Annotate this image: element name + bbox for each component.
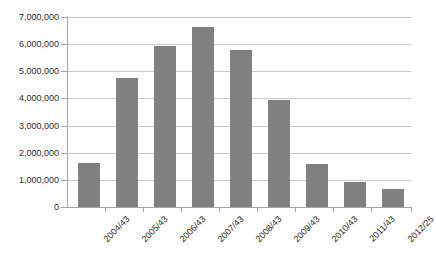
x-tick-label-2005-43: 2005/43 <box>140 214 170 244</box>
x-tick-label-2012-25: 2012/25 <box>406 214 436 244</box>
x-tick-label-2010-43: 2010/43 <box>330 214 360 244</box>
x-tick-label-2009-43: 2009/43 <box>292 214 322 244</box>
x-tick-label-2008-43: 2008/43 <box>254 214 284 244</box>
x-tick-label-2004-43: 2004/43 <box>102 214 132 244</box>
x-tick-label-2011-43: 2011/43 <box>367 214 397 244</box>
x-tick-label-2007-43: 2007/43 <box>216 214 246 244</box>
x-tick-label-2006-43: 2006/43 <box>178 214 208 244</box>
